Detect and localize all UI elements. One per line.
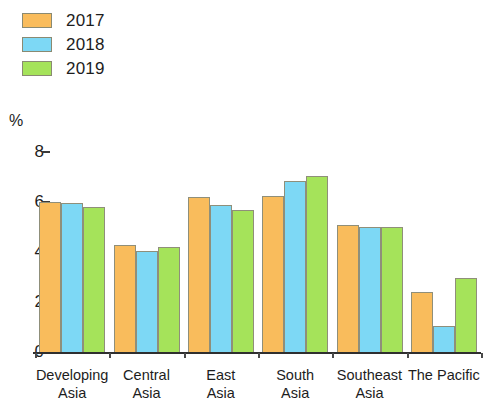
category-label-line-1: Central — [123, 367, 170, 383]
bar — [411, 292, 433, 352]
bar-chart: 201720182019 % 02468 DevelopingAsiaCentr… — [0, 0, 483, 408]
category-label-line-2: Asia — [35, 384, 109, 402]
x-axis-tick-mark — [109, 353, 111, 358]
bar — [210, 205, 232, 353]
bar — [39, 202, 61, 352]
bar — [262, 196, 284, 352]
bar — [232, 210, 254, 353]
bar — [455, 278, 477, 352]
category-label-line-1: The Pacific — [408, 367, 480, 383]
bar — [61, 203, 83, 352]
bar — [284, 181, 306, 352]
bar — [188, 197, 210, 352]
x-axis-line — [33, 352, 481, 354]
category-label-line-2: Asia — [332, 384, 406, 402]
bar — [114, 245, 136, 353]
x-axis-category-label: SoutheastAsia — [332, 366, 406, 402]
x-axis-tick-mark — [332, 353, 334, 358]
x-axis-category-label: EastAsia — [184, 366, 258, 402]
bar — [381, 227, 403, 352]
x-axis-tick-mark — [184, 353, 186, 358]
category-label-line-1: Developing — [36, 367, 109, 383]
x-axis-category-label: DevelopingAsia — [35, 366, 109, 402]
category-label-line-1: South — [276, 367, 314, 383]
bar — [337, 225, 359, 353]
category-label-line-2: Asia — [184, 384, 258, 402]
bar — [306, 176, 328, 352]
y-axis-tick-label: 8 — [14, 142, 44, 162]
x-axis-category-label: The Pacific — [407, 366, 481, 384]
bar — [433, 326, 455, 352]
x-axis-tick-mark — [258, 353, 260, 358]
x-axis-tick-mark — [407, 353, 409, 358]
bar — [359, 227, 381, 352]
category-label-line-2: Asia — [109, 384, 183, 402]
x-axis-tick-mark — [35, 353, 37, 358]
x-axis-category-label: CentralAsia — [109, 366, 183, 402]
category-label-line-1: Southeast — [337, 367, 402, 383]
bar — [83, 207, 105, 352]
bar — [158, 247, 180, 352]
category-label-line-1: East — [206, 367, 235, 383]
category-label-line-2: Asia — [258, 384, 332, 402]
plot-area: 02468 DevelopingAsiaCentralAsiaEastAsiaS… — [0, 0, 483, 408]
y-axis-tick-mark — [42, 151, 50, 153]
x-axis-category-label: SouthAsia — [258, 366, 332, 402]
bar — [136, 251, 158, 352]
